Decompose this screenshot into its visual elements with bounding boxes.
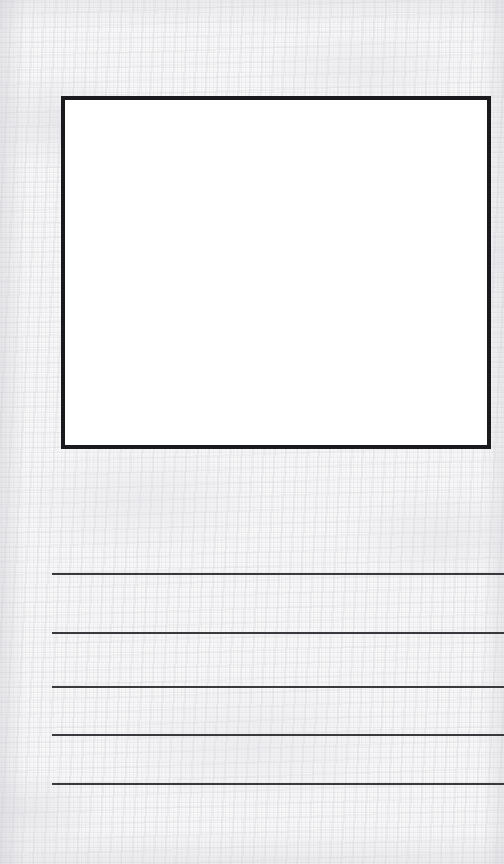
- worksheet-page: [0, 0, 504, 864]
- writing-line-2[interactable]: [52, 632, 504, 634]
- writing-line-4[interactable]: [52, 734, 504, 736]
- writing-line-5[interactable]: [52, 783, 504, 785]
- drawing-box[interactable]: [61, 96, 491, 449]
- writing-line-3[interactable]: [52, 686, 504, 688]
- writing-line-1[interactable]: [52, 573, 504, 575]
